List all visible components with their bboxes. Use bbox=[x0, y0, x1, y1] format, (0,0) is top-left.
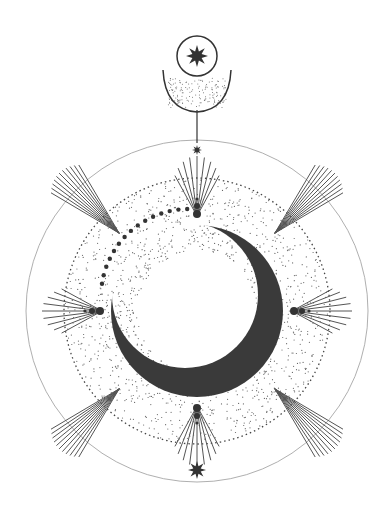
crescent-moon-icon bbox=[111, 225, 283, 397]
bottom-star bbox=[188, 461, 206, 479]
small-star-icon bbox=[192, 145, 202, 155]
celestial-illustration bbox=[0, 0, 389, 516]
star-icon bbox=[186, 45, 208, 67]
bottom-star-icon bbox=[188, 461, 206, 479]
